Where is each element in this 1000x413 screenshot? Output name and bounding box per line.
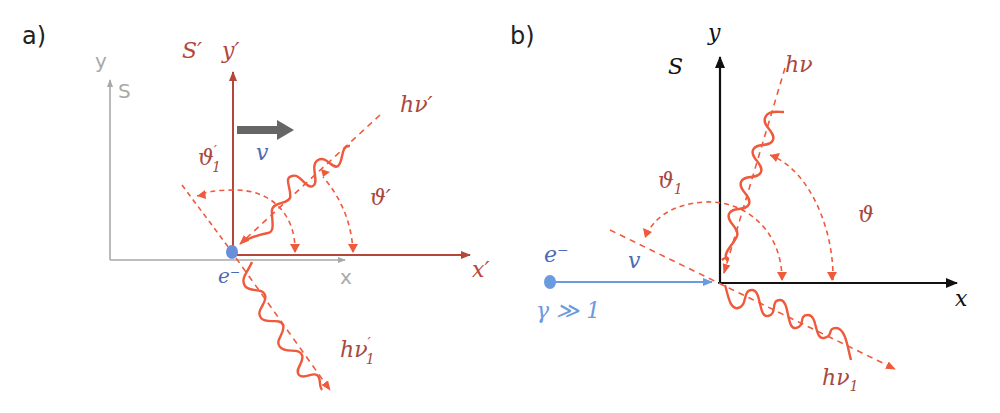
rest-x-label: x′	[472, 257, 489, 282]
panel-a-label: a)	[22, 22, 46, 50]
angle-scattered-arrowhead-left	[197, 190, 206, 199]
angle-arcs: ϑ′ ϑ′1	[182, 143, 391, 253]
angle-incident-arc	[323, 177, 353, 252]
angle-incident-label: ϑ	[858, 202, 874, 227]
angle-scattered-label: ϑ′1	[198, 143, 221, 175]
scattered-photon-label: hν′1	[340, 335, 375, 367]
incident-photon-label: hν	[785, 52, 813, 77]
incident-photon-label: hν′	[400, 92, 433, 117]
lab-frame-label: S	[118, 79, 131, 103]
velocity-arrow-head	[277, 120, 294, 140]
angle-scattered-arrowhead-bottom	[777, 272, 787, 281]
compton-scattering-diagram: a) y S x S′ y′ x′ v hν′	[0, 0, 1000, 413]
incident-photon-wave	[722, 112, 784, 260]
scattered-photon-wave	[243, 262, 322, 390]
panel-b: b) S y x e⁻ v γ ≫ 1 hν hν1	[510, 20, 968, 394]
scattered-photon-direction	[610, 230, 895, 369]
x-label: x	[955, 286, 968, 311]
velocity-label: v	[628, 248, 641, 273]
angle-incident-arrowhead-top	[770, 153, 780, 162]
rest-y-label: y′	[221, 38, 239, 63]
electron-dot	[226, 245, 238, 259]
angle-scattered-label: ϑ1	[658, 168, 683, 197]
velocity-label: v	[256, 140, 269, 165]
angle-scattered-arrowhead-bottom	[290, 244, 300, 253]
angle-incident-label: ϑ′	[370, 185, 391, 210]
frame-axes: S y x	[668, 20, 968, 311]
lab-y-label: y	[95, 49, 107, 73]
electron-a: e⁻	[218, 245, 240, 288]
electron-label: e⁻	[544, 242, 569, 267]
incident-photon: hν′	[240, 92, 433, 244]
scattered-photon-wave	[725, 285, 851, 360]
velocity-arrow: v	[237, 120, 294, 165]
angle-scattered-arc	[197, 190, 295, 252]
frame-label: S	[668, 54, 683, 79]
incident-photon-b: hν	[722, 52, 813, 273]
rest-frame-axes: S′ y′ x′	[182, 38, 489, 282]
lab-x-label: x	[340, 265, 352, 289]
scattered-reference-line	[182, 185, 232, 252]
angle-scattered-arc	[645, 202, 782, 280]
scattered-photon-label: hν1	[822, 365, 858, 394]
angle-incident-arrowhead-bottom	[827, 272, 837, 281]
rest-frame-label: S′	[182, 38, 202, 63]
panel-a: a) y S x S′ y′ x′ v hν′	[22, 22, 489, 390]
scattered-photon-b: hν1	[610, 230, 895, 394]
electron-label: e⁻	[218, 264, 240, 288]
panel-b-label: b)	[510, 22, 535, 50]
gamma-condition: γ ≫ 1	[536, 298, 600, 323]
incident-photon-direction	[240, 115, 380, 244]
angle-arcs-b: ϑ ϑ1	[643, 153, 874, 281]
angle-incident-arrowhead-bottom	[348, 244, 358, 253]
y-label: y	[707, 20, 721, 45]
angle-incident-arrowhead-top	[321, 169, 330, 177]
scattered-photon: hν′1	[236, 258, 375, 390]
electron-beam: e⁻ v γ ≫ 1	[536, 242, 712, 323]
angle-scattered-arrowhead-left	[643, 228, 652, 238]
velocity-arrow-shaft	[237, 126, 279, 134]
